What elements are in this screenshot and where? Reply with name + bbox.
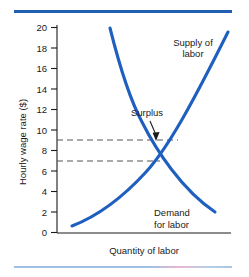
labor-market-chart: 0 2 4 6 8 10 12 14 16 18 20 Hourly wage … (0, 0, 249, 277)
y-tick-label-10: 10 (36, 125, 47, 136)
y-tick-label-20: 20 (36, 22, 47, 33)
y-tick-label-0: 0 (42, 227, 47, 238)
y-tick-label-4: 4 (42, 186, 47, 197)
y-tick-label-6: 6 (42, 166, 47, 177)
y-tick-label-14: 14 (36, 84, 47, 95)
demand-label-line2: for labor (154, 219, 189, 230)
y-tick-label-2: 2 (42, 207, 47, 218)
y-axis-title: Hourly wage rate ($) (17, 99, 28, 185)
supply-label-line2: labor (182, 48, 203, 59)
surplus-annotation-label: Surplus (131, 107, 163, 118)
y-tick-label-16: 16 (36, 63, 47, 74)
y-axis-ticks (51, 28, 57, 233)
x-axis-title: Quantity of labor (109, 245, 179, 256)
figure-container: 0 2 4 6 8 10 12 14 16 18 20 Hourly wage … (0, 0, 249, 277)
y-tick-label-12: 12 (36, 104, 47, 115)
y-tick-label-8: 8 (42, 145, 47, 156)
supply-curve (72, 32, 228, 226)
y-tick-label-18: 18 (36, 43, 47, 54)
demand-label-line1: Demand (154, 207, 190, 218)
supply-label-line1: Supply of (173, 37, 213, 48)
